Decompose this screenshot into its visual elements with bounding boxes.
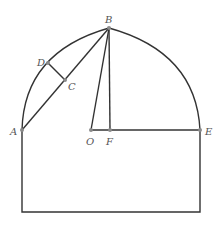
label-a: A	[9, 126, 17, 137]
point-c	[63, 78, 67, 82]
label-o: O	[86, 136, 94, 147]
segment-bo	[91, 28, 109, 130]
label-b: B	[104, 14, 112, 25]
point-d	[46, 61, 50, 65]
segment-bf	[109, 28, 110, 130]
geometry-diagram: A B C D O F E	[0, 0, 223, 229]
point-b	[107, 26, 111, 30]
point-o	[89, 128, 93, 132]
point-a	[20, 128, 24, 132]
point-f	[108, 128, 112, 132]
segment-dc	[48, 63, 65, 80]
arc-b-e	[109, 28, 200, 130]
label-e: E	[204, 126, 213, 137]
label-d: D	[36, 57, 45, 68]
label-f: F	[105, 136, 114, 147]
point-e	[198, 128, 202, 132]
label-c: C	[68, 81, 76, 92]
